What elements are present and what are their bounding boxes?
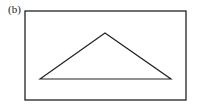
diagram-canvas	[0, 0, 199, 108]
frame-rectangle	[25, 11, 186, 100]
triangle-shape	[40, 33, 171, 79]
